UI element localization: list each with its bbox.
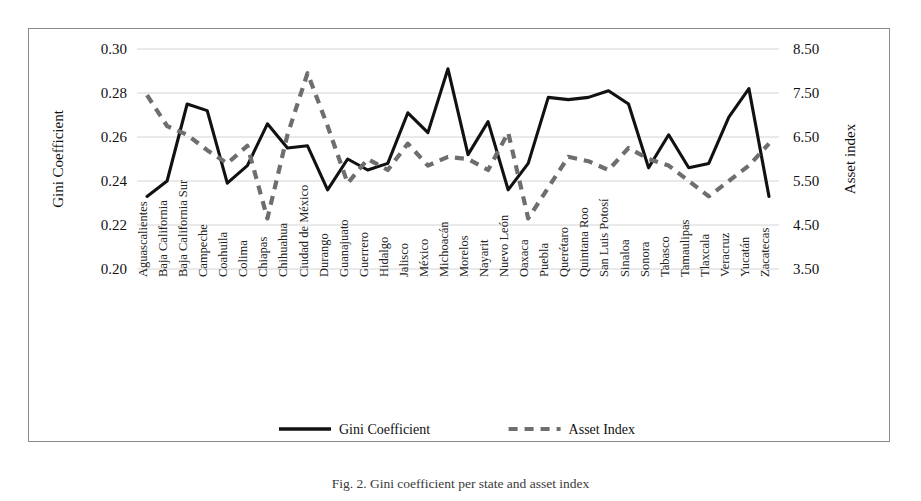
left-tick-label: 0.26: [101, 129, 128, 145]
legend-label: Gini Coefficient: [339, 422, 430, 437]
category-label: Coahuila: [216, 231, 230, 277]
left-tick-label: 0.22: [101, 217, 127, 233]
category-label: Hidalgo: [377, 237, 391, 277]
category-label: Jalisco: [397, 243, 411, 277]
figure-caption: Fig. 2. Gini coefficient per state and a…: [0, 476, 921, 501]
left-tick-label: 0.20: [101, 261, 127, 277]
category-label: México: [417, 239, 431, 277]
category-label: Tabasco: [658, 236, 672, 277]
left-axis-title: Gini Coefficient: [50, 109, 66, 207]
category-label: San Luis Potosí: [597, 198, 611, 277]
category-label: Durango: [317, 233, 331, 277]
right-tick-label: 8.50: [793, 41, 819, 57]
category-label: Chiapas: [256, 237, 270, 277]
chart-canvas: 0.200.220.240.260.280.30 3.504.505.506.5…: [29, 29, 889, 441]
left-tick-label: 0.28: [101, 85, 127, 101]
category-label: Zacatecas: [758, 228, 772, 277]
category-label: Quintana Roo: [577, 207, 591, 277]
category-label: Nayarit: [477, 239, 491, 277]
category-label: Tlaxcala: [698, 234, 712, 277]
left-tick-label: 0.30: [101, 41, 127, 57]
category-label: Sonora: [638, 241, 652, 277]
chart-legend: Gini CoefficientAsset Index: [279, 422, 635, 437]
category-label: Morelos: [457, 235, 471, 277]
right-tick-label: 4.50: [793, 217, 819, 233]
right-tick-label: 5.50: [793, 173, 819, 189]
category-label: Yucatán: [738, 236, 752, 277]
left-tick-label: 0.24: [101, 173, 128, 189]
category-label: Querétaro: [557, 227, 571, 277]
right-axis-title: Asset index: [842, 123, 858, 194]
series-line-gini-coefficient: [147, 69, 769, 197]
category-label: Ciudad de México: [297, 185, 311, 277]
right-tick-label: 7.50: [793, 85, 819, 101]
series-lines-group: [147, 69, 769, 219]
category-label: Aguascalientes: [136, 201, 150, 277]
chart-frame: 0.200.220.240.260.280.30 3.504.505.506.5…: [28, 28, 890, 442]
legend-label: Asset Index: [569, 422, 636, 437]
category-label: Nuevo León: [497, 214, 511, 277]
category-label: Veracruz: [718, 232, 732, 277]
right-tick-label: 6.50: [793, 129, 819, 145]
category-label: Chihuahua: [276, 222, 290, 277]
category-label: Baja California: [156, 200, 170, 277]
figure-container: 0.200.220.240.260.280.30 3.504.505.506.5…: [0, 0, 921, 501]
category-label: Baja California Sur: [176, 179, 190, 277]
category-label: Puebla: [537, 243, 551, 277]
category-label: Sinaloa: [618, 239, 632, 277]
left-axis-tick-labels: 0.200.220.240.260.280.30: [101, 41, 128, 277]
category-label: Tamaulipas: [678, 219, 692, 277]
category-label: Campeche: [196, 224, 210, 277]
category-label: Michoacán: [437, 221, 451, 277]
category-label: Oaxaca: [517, 239, 531, 277]
right-axis-tick-labels: 3.504.505.506.507.508.50: [793, 41, 819, 277]
right-tick-label: 3.50: [793, 261, 819, 277]
category-axis-labels: AguascalientesBaja CaliforniaBaja Califo…: [136, 179, 772, 277]
category-label: Colima: [236, 240, 250, 277]
axis-titles-group: Gini CoefficientAsset index: [50, 109, 858, 207]
category-label: Guerrero: [357, 232, 371, 277]
category-label: Guanajuato: [337, 219, 351, 277]
